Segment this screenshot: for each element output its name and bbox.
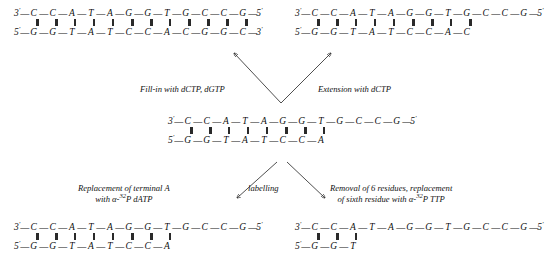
bond-dash: — xyxy=(472,222,480,233)
nucleotide-bottom-0: G xyxy=(28,241,39,252)
nucleotide-top-7: T xyxy=(161,8,172,19)
nucleotide-bottom-7: A xyxy=(442,27,453,38)
base-pair-bond-2 xyxy=(74,19,76,26)
bond-dash: — xyxy=(96,241,104,252)
nucleotide-top-9: C xyxy=(199,222,210,233)
nucleotide-top-6: G xyxy=(296,116,307,127)
bottom-strand: 5′—G—G—T—A—T—C—C—A—C xyxy=(295,27,544,38)
bond-dash: — xyxy=(301,27,309,38)
strand-top-right-end: 5′ xyxy=(256,222,262,233)
bond-dash: — xyxy=(396,222,404,233)
bond-dash: — xyxy=(191,27,199,38)
nucleotide-top-9: C xyxy=(199,8,210,19)
bond-dash: — xyxy=(58,27,66,38)
nucleotide-top-7: T xyxy=(315,116,326,127)
bond-dash: — xyxy=(77,27,85,38)
nucleotide-top-2: A xyxy=(347,8,358,19)
nucleotide-bottom-8: C xyxy=(461,27,472,38)
base-pair-bond-6 xyxy=(431,19,434,26)
label-replacement-line2-pre: with α- xyxy=(95,194,119,204)
nucleotide-top-4: A xyxy=(104,8,115,19)
bond-dash: — xyxy=(39,222,47,233)
base-pair-bond-0 xyxy=(36,233,39,240)
nucleotide-bottom-1: G xyxy=(328,241,339,252)
bond-dash: — xyxy=(174,116,182,127)
nucleotide-bottom-2: T xyxy=(347,27,358,38)
bond-dash: — xyxy=(229,27,237,38)
nucleotide-bottom-8: C xyxy=(180,27,191,38)
nucleotide-top-10: C xyxy=(372,116,383,127)
bond-dash: — xyxy=(39,27,47,38)
bond-dash: — xyxy=(288,135,296,146)
nucleotide-bottom-3: A xyxy=(366,27,377,38)
bond-dash: — xyxy=(491,8,499,19)
nucleotide-top-8: G xyxy=(180,222,191,233)
nucleotide-bottom-6: C xyxy=(142,241,153,252)
nucleotide-bottom-7: A xyxy=(315,135,326,146)
label-fill-in: Fill-in with dCTP, dGTP xyxy=(140,84,225,95)
bottom-strand: 5′—G—G—T—A—T—C—C—A—C—G—G—C—3′ xyxy=(14,27,263,38)
base-pair-bonds xyxy=(295,233,544,241)
base-pair-bond-9 xyxy=(207,19,210,26)
bond-dash: — xyxy=(415,8,423,19)
base-pair-bond-4 xyxy=(112,19,114,26)
bond-dash: — xyxy=(191,222,199,233)
bond-dash: — xyxy=(339,222,347,233)
base-pair-bond-5 xyxy=(131,233,134,240)
nucleotide-top-6: G xyxy=(423,8,434,19)
nucleotide-bottom-4: T xyxy=(104,241,115,252)
nucleotide-bottom-3: A xyxy=(239,135,250,146)
nucleotide-top-2: A xyxy=(220,116,231,127)
nucleotide-top-6: G xyxy=(423,222,434,233)
nucleotide-bottom-4: T xyxy=(104,27,115,38)
bond-dash: — xyxy=(396,27,404,38)
bond-dash: — xyxy=(248,8,256,19)
nucleotide-top-11: G xyxy=(391,116,402,127)
nucleotide-top-5: G xyxy=(123,8,134,19)
nucleotide-bottom-1: G xyxy=(47,241,58,252)
nucleotide-top-2: A xyxy=(66,222,77,233)
bond-dash: — xyxy=(250,135,258,146)
bottom-strand: 5′—G—G—T—A—T—C—C—A xyxy=(14,241,263,252)
bond-dash: — xyxy=(320,241,328,252)
bond-dash: — xyxy=(39,8,47,19)
nucleotide-bottom-5: C xyxy=(277,135,288,146)
nucleotide-bottom-6: C xyxy=(423,27,434,38)
nucleotide-top-7: T xyxy=(161,222,172,233)
bond-dash: — xyxy=(358,8,366,19)
bond-dash: — xyxy=(153,241,161,252)
nucleotide-top-5: G xyxy=(404,8,415,19)
bond-dash: — xyxy=(193,135,201,146)
nucleotide-bottom-5: C xyxy=(123,27,134,38)
label-removal-line2-post: P TTP xyxy=(423,194,445,204)
nucleotide-top-9: C xyxy=(480,8,491,19)
nucleotide-bottom-7: A xyxy=(161,241,172,252)
nucleotide-bottom-2: T xyxy=(220,135,231,146)
bond-dash: — xyxy=(193,116,201,127)
nucleotide-top-3: T xyxy=(366,222,377,233)
bond-dash: — xyxy=(453,27,461,38)
duplex-top-left: 3′—C—C—A—T—A—G—G—T—G—C—C—G—5′5′—G—G—T—A—… xyxy=(14,8,263,38)
bond-dash: — xyxy=(191,8,199,19)
nucleotide-top-8: G xyxy=(180,8,191,19)
base-pair-bond-3 xyxy=(247,127,249,134)
label-replacement-line2-post: P dATP xyxy=(126,194,153,204)
nucleotide-top-4: A xyxy=(385,222,396,233)
base-pair-bond-5 xyxy=(285,127,288,134)
bond-dash: — xyxy=(529,222,537,233)
bond-dash: — xyxy=(529,8,537,19)
nucleotide-bottom-0: G xyxy=(309,27,320,38)
bond-dash: — xyxy=(339,241,347,252)
nucleotide-bottom-9: G xyxy=(199,27,210,38)
top-strand: 3′—C—C—A—T—A—G—G—T—G—C—C—G—5′ xyxy=(295,222,544,233)
nucleotide-bottom-6: C xyxy=(142,27,153,38)
nucleotide-bottom-1: G xyxy=(328,27,339,38)
nucleotide-bottom-2: T xyxy=(66,27,77,38)
bond-dash: — xyxy=(510,222,518,233)
bond-dash: — xyxy=(134,8,142,19)
base-pair-bond-3 xyxy=(93,19,95,26)
nucleotide-top-7: T xyxy=(442,8,453,19)
nucleotide-bottom-4: T xyxy=(258,135,269,146)
nucleotide-top-4: A xyxy=(385,8,396,19)
bond-dash: — xyxy=(115,8,123,19)
